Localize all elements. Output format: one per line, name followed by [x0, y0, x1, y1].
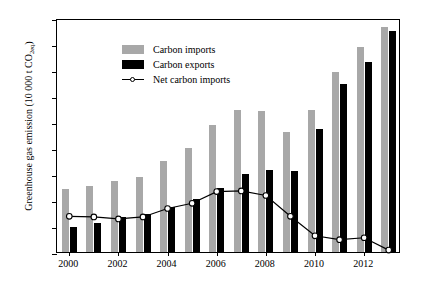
x-axis-tick — [168, 252, 169, 256]
y-axis-tick — [52, 254, 57, 255]
net-line-marker — [386, 247, 392, 253]
y-axis-tick — [52, 46, 57, 47]
x-axis-tick-label: 2008 — [243, 258, 287, 269]
x-axis-tick — [217, 252, 218, 256]
net-line-marker — [312, 233, 318, 239]
net-line-marker — [214, 189, 220, 195]
y-axis-title-subscript: 2eq — [28, 45, 35, 54]
y-axis-tick — [52, 202, 57, 203]
net-line-marker — [66, 214, 72, 220]
legend-item-net-carbon-imports: Net carbon imports — [122, 72, 230, 87]
x-axis-tick-label: 2004 — [145, 258, 189, 269]
y-axis-tick — [52, 150, 57, 151]
net-line-marker — [337, 237, 343, 243]
legend-label-carbon-exports: Carbon exports — [153, 59, 214, 70]
net-line-marker — [140, 214, 146, 220]
x-axis-tick — [315, 252, 316, 256]
chart-legend: Carbon imports Carbon exports Net carbon… — [122, 42, 230, 87]
y-axis-title-main: Greenhouse gas emission (10 000 t CO — [23, 54, 34, 211]
x-axis-tick-label: 2006 — [194, 258, 238, 269]
plot-area: Carbon imports Carbon exports Net carbon… — [56, 19, 400, 253]
y-axis-tick — [52, 124, 57, 125]
x-axis-tick-label: 2010 — [292, 258, 336, 269]
x-axis-tick — [69, 252, 70, 256]
x-axis-tick-label: 2012 — [341, 258, 385, 269]
legend-item-carbon-exports: Carbon exports — [122, 57, 230, 72]
legend-line-marker-icon — [122, 75, 144, 84]
y-axis-tick — [52, 228, 57, 229]
legend-label-carbon-imports: Carbon imports — [153, 44, 216, 55]
net-line-marker — [116, 216, 122, 222]
y-axis-tick — [52, 98, 57, 99]
legend-item-carbon-imports: Carbon imports — [122, 42, 230, 57]
x-axis-tick — [364, 252, 365, 256]
y-axis-title: Greenhouse gas emission (10 000 t CO2eq) — [23, 1, 35, 251]
y-axis-tick — [52, 72, 57, 73]
legend-swatch-carbon-imports — [122, 45, 144, 54]
legend-swatch-carbon-exports — [122, 60, 144, 69]
net-line-marker — [361, 235, 367, 241]
net-line-marker — [91, 214, 97, 220]
x-axis-tick — [266, 252, 267, 256]
net-line-marker — [238, 188, 244, 194]
y-axis-tick — [52, 176, 57, 177]
net-line-marker — [263, 193, 269, 199]
net-line-marker — [165, 206, 171, 212]
net-line-marker — [288, 214, 294, 220]
legend-label-net-carbon-imports: Net carbon imports — [153, 74, 230, 85]
net-line-marker — [189, 201, 195, 207]
chart-figure: Greenhouse gas emission (10 000 t CO2eq)… — [0, 0, 428, 283]
x-axis-tick — [118, 252, 119, 256]
x-axis-tick-label: 2002 — [95, 258, 139, 269]
x-axis-tick-label: 2000 — [46, 258, 90, 269]
y-axis-tick — [52, 20, 57, 21]
